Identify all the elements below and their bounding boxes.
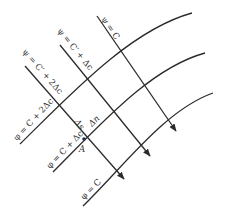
equipotential-labels: φ = C + 2Δc φ = C + Δc φ = C [11,96,103,201]
delta-s-label: Δs [72,116,87,132]
equipotential-line-c-plus-dc [53,53,205,172]
point-a-label: A [78,144,85,154]
streamline-label-c: ψ = C [99,14,122,41]
streamline-label-c-plus-dc: ψ = C′ + Δc [55,26,95,72]
streamline-label-c-plus-2dc: ψ = C′ + 2Δc [20,47,65,96]
point-a-marker [82,137,86,141]
streamline-labels: ψ = C ψ = C′ + Δc ψ = C′ + 2Δc [20,14,122,96]
delta-n-label: Δn [86,113,102,129]
equipotential-line-c [83,93,213,206]
equipotential-label-c-plus-2dc: φ = C + 2Δc [11,96,55,142]
flow-net-diagram: ψ = C ψ = C′ + Δc ψ = C′ + 2Δc φ = C + 2… [0,0,225,217]
